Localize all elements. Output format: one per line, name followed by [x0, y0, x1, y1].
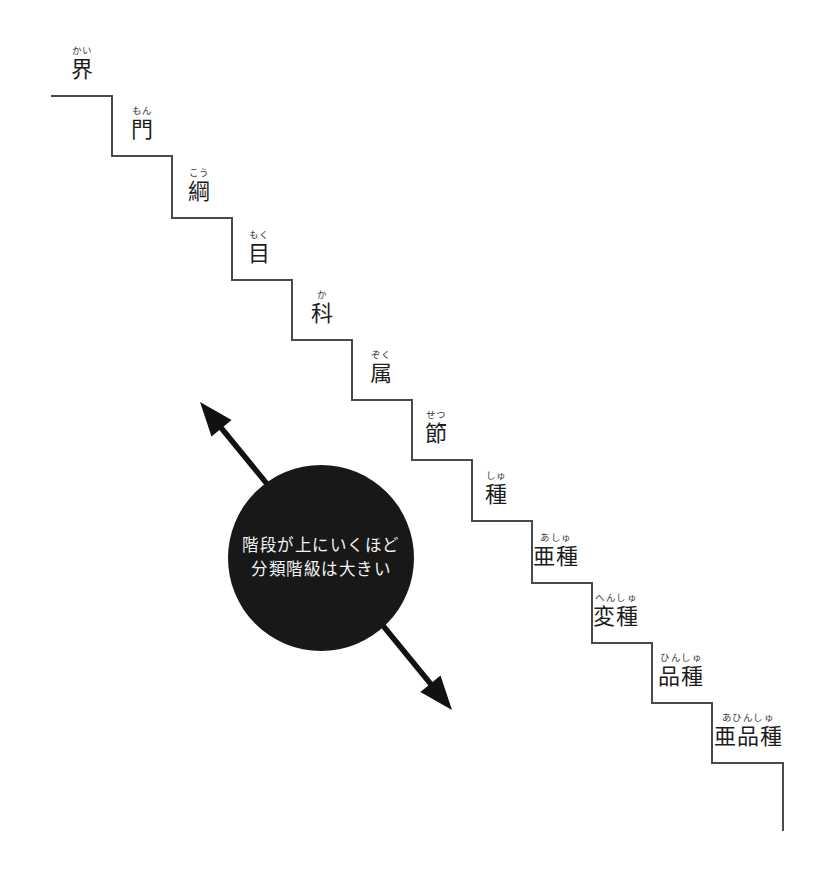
rank-furigana: へんしゅ [595, 593, 637, 603]
rank-furigana: もく [249, 230, 270, 240]
rank-furigana: かい [72, 46, 93, 56]
rank-kanji: 節 [425, 423, 448, 445]
rank-label-変種: へんしゅ変種 [593, 593, 639, 628]
rank-label-目: もく目 [248, 230, 271, 265]
rank-furigana: ぞく [371, 350, 392, 360]
taxonomy-staircase-diagram: かい界もん門こう綱もく目か科ぞく属せつ節しゅ種あしゅ亜種へんしゅ変種ひんしゅ品種… [0, 0, 828, 872]
rank-kanji: 綱 [188, 181, 211, 203]
rank-kanji: 亜品種 [714, 726, 783, 748]
rank-furigana: あしゅ [540, 533, 572, 543]
rank-furigana: ひんしゅ [660, 653, 702, 663]
rank-label-節: せつ節 [425, 410, 448, 445]
rank-label-品種: ひんしゅ品種 [658, 653, 704, 688]
rank-furigana: しゅ [486, 471, 507, 481]
rank-kanji: 門 [131, 119, 154, 141]
rank-kanji: 変種 [593, 606, 639, 628]
callout-line-1: 階段が上にいくほど [242, 534, 400, 558]
rank-label-綱: こう綱 [188, 168, 211, 203]
rank-furigana: せつ [426, 410, 447, 420]
rank-furigana: こう [189, 168, 210, 178]
rank-label-科: か科 [311, 290, 334, 325]
staircase-polyline [52, 96, 783, 830]
callout-line-2: 分類階級は大きい [251, 558, 391, 582]
rank-label-種: しゅ種 [485, 471, 508, 506]
rank-kanji: 目 [248, 243, 271, 265]
rank-furigana: か [317, 290, 328, 300]
rank-label-門: もん門 [131, 106, 154, 141]
stair-step-lines [52, 96, 783, 830]
rank-furigana: もん [132, 106, 153, 116]
rank-label-亜品種: あひんしゅ亜品種 [714, 713, 783, 748]
rank-label-界: かい界 [71, 46, 94, 81]
rank-kanji: 界 [71, 59, 94, 81]
rank-kanji: 亜種 [533, 546, 579, 568]
staircase-graphic [0, 0, 828, 872]
rank-label-亜種: あしゅ亜種 [533, 533, 579, 568]
rank-furigana: あひんしゅ [722, 713, 775, 723]
rank-kanji: 品種 [658, 666, 704, 688]
rank-label-属: ぞく属 [370, 350, 393, 385]
rank-kanji: 属 [370, 363, 393, 385]
rank-kanji: 科 [311, 303, 334, 325]
rank-kanji: 種 [485, 484, 508, 506]
callout-bubble: 階段が上にいくほど 分類階級は大きい [228, 465, 414, 651]
